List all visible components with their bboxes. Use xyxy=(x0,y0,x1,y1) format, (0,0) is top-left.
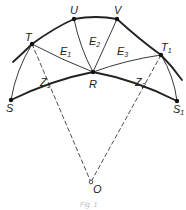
point-V xyxy=(115,17,119,21)
label-V: V xyxy=(114,4,123,16)
label-O: O xyxy=(93,183,102,195)
label-E2: E2 xyxy=(89,35,100,48)
point-U xyxy=(72,17,76,21)
label-U: U xyxy=(70,4,78,16)
point-T1 xyxy=(159,53,163,57)
label-S: S xyxy=(6,102,14,114)
label-E3: E3 xyxy=(117,45,128,58)
point-R xyxy=(91,70,95,74)
figure-caption: Fig. 1 xyxy=(80,201,98,209)
label-E1: E1 xyxy=(60,45,71,58)
label-T1: T1 xyxy=(161,41,172,54)
label-R: R xyxy=(89,78,97,90)
dashed-T-O xyxy=(32,44,90,180)
geometry-diagram: T U V T1 R S S1 O E1 E2 E3 Z1 Z2 Fig. 1 xyxy=(0,0,186,210)
label-S1: S1 xyxy=(173,103,184,116)
label-Z1: Z1 xyxy=(39,76,51,89)
label-Z2: Z2 xyxy=(134,76,146,89)
label-T: T xyxy=(25,31,33,43)
